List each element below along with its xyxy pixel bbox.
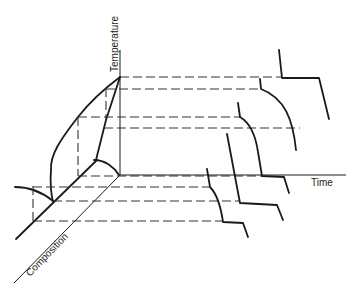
composition-label: Composition — [24, 231, 71, 279]
phase-diagram-cooling-curves: Temperature Time Composition — [0, 0, 357, 297]
diagram-svg: Temperature Time Composition — [0, 0, 357, 297]
left-curve — [15, 187, 53, 201]
base-composition-line — [16, 160, 97, 239]
eutectic-dome — [94, 160, 119, 175]
temperature-label: Temperature — [109, 15, 120, 72]
cooling-curve-b — [260, 79, 296, 150]
liquidus-curve — [51, 77, 120, 201]
time-label: Time — [311, 177, 333, 188]
cooling-curve-a — [279, 50, 329, 119]
cooling-curve-c — [238, 103, 289, 193]
